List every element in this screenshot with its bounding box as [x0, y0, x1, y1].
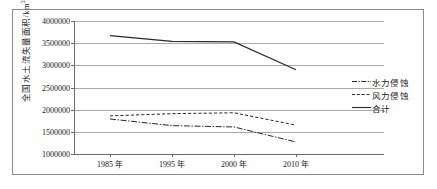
legend-item-wind-erosion[interactable]: 风力侵蚀	[352, 88, 424, 101]
chart-figure: 全国水土流失量面积/km2 40000003500000300000025000…	[0, 0, 437, 189]
x-axis-tick-1: 1995 年	[159, 158, 185, 169]
y-tickmark	[71, 65, 74, 66]
legend-item-water-erosion[interactable]: 水力侵蚀	[352, 75, 424, 88]
x-tickmark	[110, 154, 111, 157]
y-tickmark	[71, 88, 74, 89]
x-tickmark	[172, 154, 173, 157]
x-tickmark	[296, 154, 297, 157]
y-tickmark	[71, 21, 74, 22]
series-line-风力侵蚀	[110, 113, 296, 125]
legend-label-water-erosion: 水力侵蚀	[372, 76, 409, 88]
series-line-合计	[110, 36, 296, 70]
legend-label-total: 合计	[372, 102, 390, 114]
chart-legend: 水力侵蚀 风力侵蚀 合计	[352, 75, 424, 114]
legend-item-total[interactable]: 合计	[352, 101, 424, 114]
y-tickmark	[71, 132, 74, 133]
x-axis-tick-2: 2000 年	[221, 158, 247, 169]
y-tickmark	[71, 43, 74, 44]
y-tickmark	[71, 110, 74, 111]
legend-swatch-solid-icon	[352, 103, 371, 112]
y-tickmark	[71, 154, 74, 155]
x-axis-tick-3: 2010 年	[283, 158, 309, 169]
legend-swatch-dashed-icon	[352, 90, 371, 99]
legend-label-wind-erosion: 风力侵蚀	[372, 89, 409, 101]
x-axis-tick-0: 1985 年	[97, 158, 123, 169]
series-line-水力侵蚀	[110, 119, 296, 142]
legend-swatch-dashdot-icon	[352, 77, 371, 86]
x-tickmark	[234, 154, 235, 157]
